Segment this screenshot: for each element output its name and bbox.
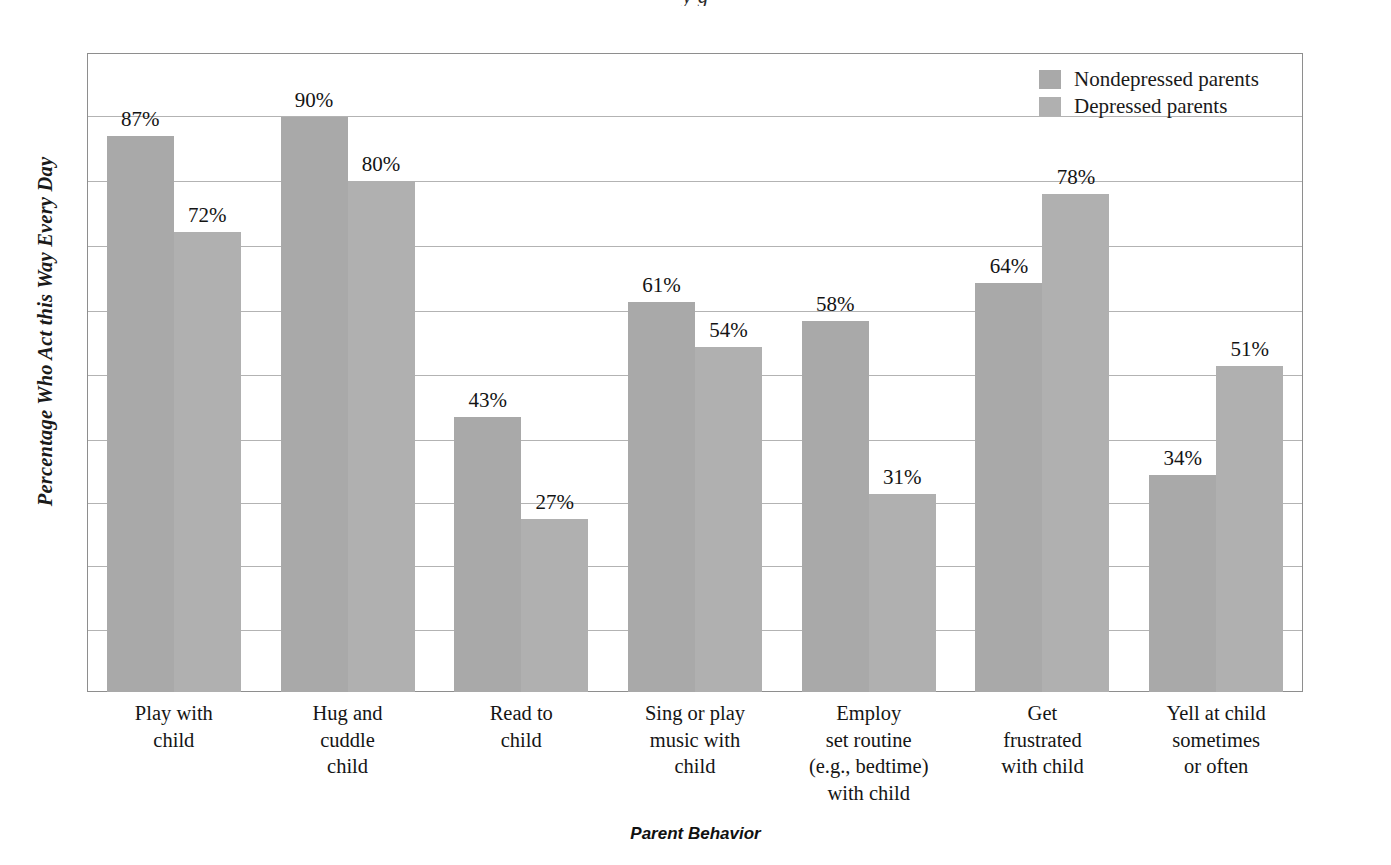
category-label: Read tochild [420, 700, 622, 753]
cropped-title-sliver: y g [0, 0, 1391, 6]
bar [1216, 366, 1283, 692]
bar-value-label: 31% [869, 467, 936, 488]
chart-legend: Nondepressed parents Depressed parents [1031, 62, 1293, 126]
bar-value-label: 51% [1216, 339, 1283, 360]
bar-value-label: 61% [628, 275, 695, 296]
bar-value-label: 34% [1149, 448, 1216, 469]
bar [281, 117, 348, 692]
category-label: Getfrustratedwith child [942, 700, 1144, 780]
bar [521, 519, 588, 692]
bar-value-label: 72% [174, 205, 241, 226]
bar-chart-figure: y g Percentage Who Act this Way Every Da… [0, 0, 1391, 865]
bar [454, 417, 521, 692]
category-label: Employset routine(e.g., bedtime)with chi… [768, 700, 970, 806]
bar [107, 136, 174, 692]
bar-value-label: 64% [975, 256, 1042, 277]
bar-value-label: 90% [281, 90, 348, 111]
legend-item: Depressed parents [1039, 93, 1287, 120]
bar [348, 181, 415, 692]
y-axis-title: Percentage Who Act this Way Every Day [34, 32, 57, 632]
bar [869, 494, 936, 692]
bar-value-label: 78% [1042, 167, 1109, 188]
category-labels: Play withchildHug andcuddlechildRead toc… [87, 700, 1303, 820]
legend-item: Nondepressed parents [1039, 66, 1287, 93]
bar [174, 232, 241, 692]
category-label: Sing or playmusic withchild [594, 700, 796, 780]
bar-value-label: 58% [802, 294, 869, 315]
x-axis-title: Parent Behavior [0, 824, 1391, 844]
bar-value-label: 87% [107, 109, 174, 130]
bar [802, 321, 869, 692]
bar [1042, 194, 1109, 692]
legend-swatch-depressed [1039, 97, 1061, 116]
bar [695, 347, 762, 692]
bars-layer: 87%72%90%80%43%27%61%54%58%31%64%78%34%5… [87, 53, 1303, 692]
category-label: Yell at childsometimesor often [1115, 700, 1317, 780]
category-label: Play withchild [73, 700, 275, 753]
legend-swatch-nondepressed [1039, 70, 1061, 89]
legend-label: Depressed parents [1074, 96, 1227, 117]
bar [975, 283, 1042, 692]
legend-label: Nondepressed parents [1074, 69, 1259, 90]
bar-value-label: 43% [454, 390, 521, 411]
bar-value-label: 27% [521, 492, 588, 513]
bar [628, 302, 695, 692]
category-label: Hug andcuddlechild [247, 700, 449, 780]
bar [1149, 475, 1216, 692]
bar-value-label: 80% [348, 154, 415, 175]
bar-value-label: 54% [695, 320, 762, 341]
